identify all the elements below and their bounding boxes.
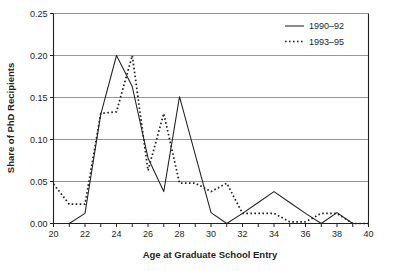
x-tick-label: 26 (143, 229, 153, 239)
y-tick-label: 0.20 (30, 51, 48, 61)
chart-legend: 1990–921993–95 (285, 21, 344, 47)
x-tick-label: 20 (48, 229, 58, 239)
chart-container: 0.000.050.100.150.200.25 202224262830323… (0, 0, 396, 271)
x-tick-label: 32 (237, 229, 247, 239)
x-tick-label: 38 (332, 229, 342, 239)
y-tick-labels: 0.000.050.100.150.200.25 (30, 9, 48, 229)
y-tick-label: 0.15 (30, 93, 48, 103)
x-tick-label: 34 (269, 229, 279, 239)
x-tick-label: 24 (111, 229, 121, 239)
x-tick-label: 22 (80, 229, 90, 239)
y-tick-label: 0.10 (30, 135, 48, 145)
x-tick-label: 28 (174, 229, 184, 239)
y-tick-label: 0.00 (30, 219, 48, 229)
x-tick-labels: 2022242628303234363840 (48, 229, 373, 239)
x-tick-label: 40 (363, 229, 373, 239)
legend-label-1: 1990–92 (309, 21, 344, 31)
legend-label-2: 1993–95 (309, 37, 344, 47)
y-axis-title: Share of PhD Recipients (5, 63, 16, 173)
y-tick-label: 0.25 (30, 9, 48, 19)
y-tick-label: 0.05 (30, 177, 48, 187)
x-axis-title: Age at Graduate School Entry (143, 249, 278, 260)
x-tick-label: 36 (300, 229, 310, 239)
line-chart: 0.000.050.100.150.200.25 202224262830323… (0, 0, 396, 271)
x-tick-label: 30 (206, 229, 216, 239)
